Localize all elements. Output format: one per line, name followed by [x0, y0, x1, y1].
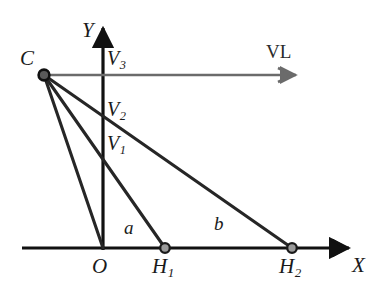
marker-point-h2 — [287, 243, 297, 253]
point-label-o: O — [92, 256, 107, 277]
point-label-h1-subscript: 1 — [168, 265, 175, 280]
x-axis-label: X — [352, 255, 365, 276]
point-label-v1: V1 — [107, 133, 126, 156]
marker-point-h1 — [160, 243, 170, 253]
projection-rays — [44, 75, 292, 248]
geometry-figure: Y X C O H1 H2 V1 V2 V3 VL a b — [0, 0, 379, 299]
marker-point-c — [39, 70, 50, 81]
point-label-v3-base: V — [107, 47, 119, 69]
x-axis — [22, 240, 349, 256]
point-label-v2: V2 — [107, 99, 126, 122]
vanishing-line-label: VL — [266, 42, 291, 61]
point-label-h1: H1 — [152, 256, 174, 279]
diagram-canvas — [0, 0, 379, 299]
point-label-v1-base: V — [107, 132, 119, 154]
point-label-h2-base: H — [279, 254, 294, 278]
point-label-c: C — [20, 48, 34, 69]
point-label-v3-subscript: 3 — [120, 58, 126, 72]
point-label-v3: V3 — [107, 48, 126, 71]
ray-c-to-o — [44, 75, 103, 248]
point-label-v2-subscript: 2 — [120, 109, 126, 123]
ray-c-to-h2 — [44, 75, 292, 248]
segment-label-a: a — [124, 218, 134, 237]
y-axis-label: Y — [82, 20, 94, 41]
point-label-h1-base: H — [152, 254, 167, 278]
point-label-v2-base: V — [107, 98, 119, 120]
point-label-h2-subscript: 2 — [295, 265, 302, 280]
vanishing-line — [44, 68, 296, 82]
segment-label-b: b — [214, 214, 224, 233]
point-label-h2: H2 — [279, 256, 301, 279]
point-label-v1-subscript: 1 — [120, 143, 126, 157]
